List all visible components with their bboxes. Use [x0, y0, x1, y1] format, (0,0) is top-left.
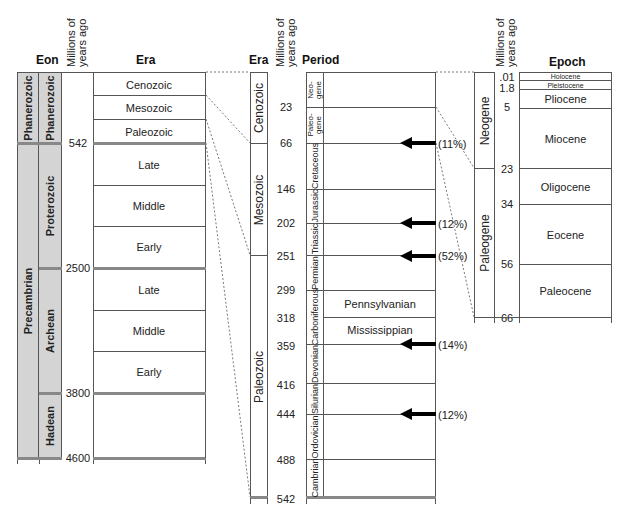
zoom-connector-lines	[0, 0, 627, 523]
